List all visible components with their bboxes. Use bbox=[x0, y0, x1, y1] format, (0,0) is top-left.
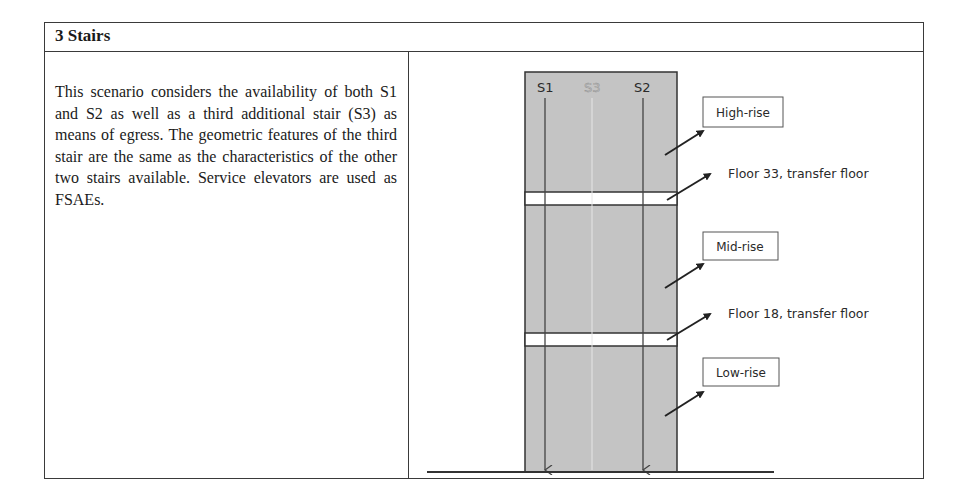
transfer-band-floor-18 bbox=[525, 333, 677, 346]
stair-label-s1: S1 bbox=[537, 80, 554, 95]
floor-18-transfer-label: Floor 18, transfer floor bbox=[728, 306, 869, 321]
mid-rise-label: Mid-rise bbox=[716, 240, 764, 254]
stair-label-s2: S2 bbox=[634, 80, 651, 95]
low-rise-label: Low-rise bbox=[716, 366, 766, 380]
transfer-band-floor-33 bbox=[525, 192, 677, 205]
stair-label-s3: S3 bbox=[584, 80, 601, 95]
floor-33-transfer-label: Floor 33, transfer floor bbox=[728, 166, 869, 181]
building-egress-diagram: S1 S3 S2 High-rise Floor 33, transfer fl… bbox=[0, 0, 966, 502]
building-outline bbox=[525, 72, 677, 472]
high-rise-label: High-rise bbox=[716, 106, 770, 120]
